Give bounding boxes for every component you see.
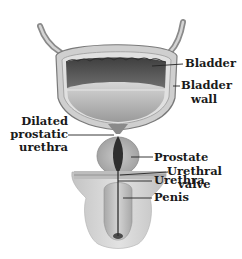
label-urethra: Urethra — [154, 174, 205, 187]
label-bladder-wall-2: wall — [191, 93, 217, 106]
label-prostate: Prostate — [154, 151, 208, 164]
label-bladder-wall-1: Bladder — [181, 79, 232, 92]
label-dilated-3: urethra — [4, 141, 68, 154]
label-penis: Penis — [154, 191, 189, 204]
ureter-right — [170, 22, 183, 52]
label-bladder: Bladder — [185, 57, 236, 70]
bladder — [56, 45, 177, 130]
ureter-left — [40, 26, 60, 52]
